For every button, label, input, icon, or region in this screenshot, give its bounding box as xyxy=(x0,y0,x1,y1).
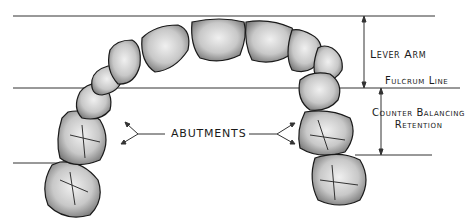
counter-balancing-label: Counter Balancing Retention xyxy=(372,107,465,131)
fulcrum-line-label: Fulcrum Line xyxy=(385,75,448,86)
tooth-left-lateral-incisor xyxy=(142,25,189,72)
tooth-right-molar-1 xyxy=(312,154,366,205)
lever-arm-label: Lever Arm xyxy=(370,48,426,61)
abutments-arrow-right xyxy=(249,123,295,144)
counter-balancing-label-line2: Retention xyxy=(372,119,465,131)
counter-balancing-label-line1: Counter Balancing xyxy=(372,107,465,119)
abutments-label: ABUTMENTS xyxy=(171,127,246,140)
lever-arm-arrow xyxy=(362,16,366,88)
tooth-left-canine xyxy=(109,40,141,84)
tooth-left-molar-1 xyxy=(58,111,106,165)
tooth-left-molar-2 xyxy=(45,162,100,217)
tooth-right-premolar-1 xyxy=(299,73,340,110)
tooth-right-central-incisor xyxy=(246,21,295,62)
tooth-left-central-incisor xyxy=(192,19,246,61)
tooth-right-premolar-2 xyxy=(299,111,353,155)
abutments-arrow-left xyxy=(121,122,165,144)
